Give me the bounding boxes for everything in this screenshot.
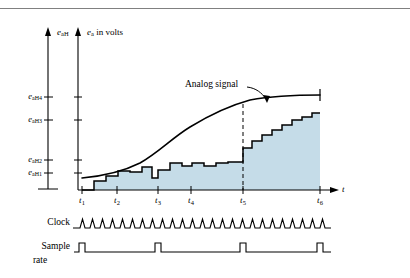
analog-to-digital-sampling-figure: eaH ea in volts eaH4 eaH3 eaH2 eaH1 t1 t… bbox=[0, 0, 410, 278]
left-axis-arrowhead bbox=[45, 27, 51, 36]
y-tick-label-aH2: eaH2 bbox=[2, 155, 42, 164]
y-tick-label-aH1: eaH1 bbox=[2, 168, 42, 177]
x-tick-label-t4: t4 bbox=[181, 196, 201, 206]
x-axis-arrowhead bbox=[330, 187, 339, 193]
main-axis-label: ea in volts bbox=[87, 28, 123, 38]
y-tick-label-aH4: eaH4 bbox=[2, 92, 42, 101]
plot-graphics bbox=[0, 0, 410, 278]
y-tick-label-aH3: eaH3 bbox=[2, 115, 42, 124]
sample-rate-label-line1: Sample bbox=[10, 242, 70, 252]
x-axis-variable-label: t bbox=[342, 185, 345, 194]
x-tick-label-t1: t1 bbox=[72, 196, 92, 206]
analog-signal-leader-arrowhead bbox=[263, 95, 270, 103]
clock-label: Clock bbox=[10, 218, 70, 228]
sample-rate-waveform bbox=[74, 243, 331, 252]
main-y-axis-arrowhead bbox=[75, 27, 81, 36]
x-tick-label-t3: t3 bbox=[148, 196, 168, 206]
x-tick-label-t5: t5 bbox=[233, 196, 253, 206]
sample-rate-label-line2: rate bbox=[10, 256, 70, 266]
analog-signal-annotation: Analog signal bbox=[185, 80, 238, 90]
x-tick-label-t6: t6 bbox=[310, 196, 330, 206]
left-axis-label: eaH bbox=[57, 28, 69, 38]
clock-waveform bbox=[73, 219, 331, 228]
x-tick-label-t2: t2 bbox=[107, 196, 127, 206]
